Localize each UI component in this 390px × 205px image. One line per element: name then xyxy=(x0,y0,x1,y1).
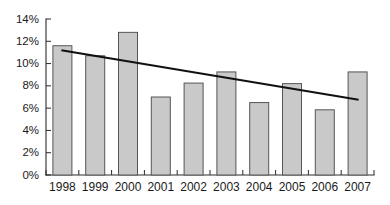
x-axis-tick-label-1998: 1998 xyxy=(49,180,76,194)
bar-1998 xyxy=(53,46,72,175)
x-axis-tick-label-2004: 2004 xyxy=(246,180,273,194)
bar-2001 xyxy=(151,97,170,175)
x-axis-tick-label-2002: 2002 xyxy=(180,180,207,194)
bar-2004 xyxy=(250,103,269,175)
x-axis-tick-label-2007: 2007 xyxy=(344,180,371,194)
y-axis-tick-label: 4% xyxy=(22,124,39,136)
y-axis-tick-label: 2% xyxy=(22,146,39,158)
y-axis-tick-label: 6% xyxy=(22,102,39,114)
bar-1999 xyxy=(86,56,105,175)
bar-2006 xyxy=(315,110,334,175)
y-axis-tick-label: 10% xyxy=(16,57,39,69)
x-axis-tick-label-2001: 2001 xyxy=(147,180,174,194)
x-axis-tick-label-2005: 2005 xyxy=(279,180,306,194)
x-axis-tick-label-2000: 2000 xyxy=(115,180,142,194)
chart-canvas: 0%2%4%6%8%10%12%14% 19981999200020012002… xyxy=(0,0,390,205)
y-axis-tick-label: 12% xyxy=(16,35,39,47)
bar-2000 xyxy=(119,32,138,175)
bar-chart-figure: 0%2%4%6%8%10%12%14% 19981999200020012002… xyxy=(0,0,390,205)
bar-2007 xyxy=(348,72,367,175)
y-axis-tick-label: 14% xyxy=(16,13,39,25)
x-axis-tick-label-2006: 2006 xyxy=(311,180,338,194)
y-axis-tick-label: 0% xyxy=(22,169,39,181)
bar-2002 xyxy=(184,83,203,175)
y-axis-tick-label: 8% xyxy=(22,79,39,91)
x-axis-tick-label-2003: 2003 xyxy=(213,180,240,194)
x-axis-tick-label-1999: 1999 xyxy=(82,180,109,194)
bar-2005 xyxy=(283,84,302,175)
bar-2003 xyxy=(217,72,236,175)
